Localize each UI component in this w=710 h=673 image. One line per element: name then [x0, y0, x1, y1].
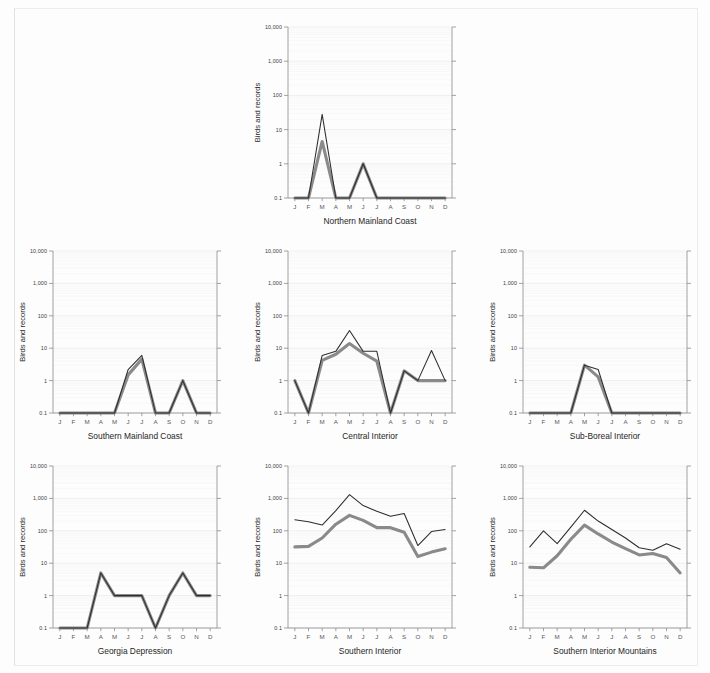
chart-svg: 10,0001,0001001010.1JFMAMJJASONDBirds an…	[251, 14, 470, 238]
series-line-birds	[295, 343, 445, 413]
y-tick-label: 10,000	[265, 248, 282, 254]
x-tick-label-J: J	[597, 633, 600, 640]
x-tick-label-J: J	[127, 633, 130, 640]
x-tick-label-S: S	[402, 203, 406, 210]
y-axis-title: Birds and records	[18, 517, 27, 577]
x-tick-label-M: M	[555, 633, 560, 640]
y-tick-label: 100	[508, 528, 517, 534]
x-tick-label-J: J	[597, 418, 600, 425]
x-tick-label-J: J	[610, 633, 613, 640]
y-tick-label: 0.1	[274, 625, 282, 631]
x-tick-label-S: S	[402, 633, 406, 640]
series-line-records	[530, 510, 680, 550]
x-tick-label-D: D	[678, 418, 683, 425]
y-tick-label: 10,000	[265, 463, 282, 469]
panel-title: Southern Interior	[339, 646, 402, 656]
y-tick-label: 1	[279, 378, 282, 384]
y-tick-label: 0.1	[509, 410, 517, 416]
x-tick-label-F: F	[72, 633, 76, 640]
x-tick-label-M: M	[347, 633, 352, 640]
panel-title: Southern Mainland Coast	[88, 431, 183, 441]
y-axis-title: Birds and records	[488, 517, 497, 577]
y-axis-title: Birds and records	[253, 302, 262, 362]
gridlines	[53, 466, 217, 628]
axes: 10,0001,0001001010.1JFMAMJJASOND	[500, 248, 691, 425]
y-tick-label: 1	[514, 593, 517, 599]
y-tick-label: 10,000	[30, 248, 47, 254]
y-tick-label: 10	[41, 560, 47, 566]
y-tick-label: 10	[276, 345, 282, 351]
x-tick-label-S: S	[637, 418, 641, 425]
x-tick-label-N: N	[429, 418, 433, 425]
x-tick-label-N: N	[664, 418, 668, 425]
x-tick-label-D: D	[443, 203, 448, 210]
x-tick-label-M: M	[85, 418, 90, 425]
panel-title: Northern Mainland Coast	[323, 216, 417, 226]
series-line-birds	[295, 141, 445, 198]
series-line-records	[295, 331, 445, 413]
x-tick-label-O: O	[415, 418, 420, 425]
x-tick-label-J: J	[375, 203, 378, 210]
y-tick-label: 0.1	[509, 625, 517, 631]
chart-panel-southern-mainland-coast: 10,0001,0001001010.1JFMAMJJASONDBirds an…	[16, 238, 235, 453]
y-tick-label: 10,000	[500, 248, 517, 254]
x-tick-label-F: F	[542, 633, 546, 640]
chart-svg: 10,0001,0001001010.1JFMAMJJASONDBirds an…	[16, 238, 235, 453]
x-tick-label-N: N	[429, 633, 433, 640]
x-tick-label-A: A	[334, 203, 339, 210]
y-tick-label: 1,000	[503, 495, 517, 501]
series-line-birds	[60, 359, 210, 413]
gridlines	[53, 251, 217, 413]
y-tick-label: 10,000	[265, 24, 282, 30]
chart-panel-southern-interior-mountains: 10,0001,0001001010.1JFMAMJJASONDBirds an…	[486, 453, 705, 668]
x-tick-label-A: A	[334, 418, 339, 425]
gridlines	[288, 251, 452, 413]
x-tick-label-N: N	[429, 203, 433, 210]
x-tick-label-J: J	[375, 633, 378, 640]
x-tick-label-D: D	[208, 633, 213, 640]
x-tick-label-J: J	[58, 633, 61, 640]
x-tick-label-D: D	[443, 633, 448, 640]
chart-svg: 10,0001,0001001010.1JFMAMJJASONDBirds an…	[486, 453, 705, 668]
x-tick-label-J: J	[375, 418, 378, 425]
x-tick-label-A: A	[623, 633, 628, 640]
y-tick-label: 10	[511, 560, 517, 566]
x-tick-label-J: J	[293, 203, 296, 210]
x-tick-label-F: F	[307, 633, 311, 640]
x-tick-label-M: M	[320, 203, 325, 210]
axes: 10,0001,0001001010.1JFMAMJJASOND	[500, 463, 691, 640]
y-tick-label: 100	[508, 313, 517, 319]
y-tick-label: 0.1	[274, 410, 282, 416]
chart-panel-northern-mainland-coast: 10,0001,0001001010.1JFMAMJJASONDBirds an…	[251, 14, 470, 238]
x-tick-label-A: A	[569, 418, 574, 425]
gridlines	[523, 251, 687, 413]
panel-title: Southern Interior Mountains	[553, 646, 656, 656]
x-tick-label-S: S	[167, 418, 171, 425]
x-tick-label-M: M	[85, 633, 90, 640]
y-tick-label: 10	[511, 345, 517, 351]
chart-svg: 10,0001,0001001010.1JFMAMJJASONDBirds an…	[486, 238, 705, 453]
y-tick-label: 1	[44, 378, 47, 384]
x-tick-label-A: A	[388, 418, 393, 425]
x-tick-label-M: M	[320, 418, 325, 425]
chart-panel-georgia-depression: 10,0001,0001001010.1JFMAMJJASONDBirds an…	[16, 453, 235, 668]
x-tick-label-S: S	[402, 418, 406, 425]
y-axis-title: Birds and records	[488, 302, 497, 362]
x-tick-label-N: N	[194, 633, 198, 640]
x-tick-label-M: M	[320, 633, 325, 640]
x-tick-label-M: M	[582, 418, 587, 425]
y-tick-label: 0.1	[39, 410, 47, 416]
x-tick-label-M: M	[347, 203, 352, 210]
x-tick-label-M: M	[112, 633, 117, 640]
axes: 10,0001,0001001010.1JFMAMJJASOND	[30, 463, 221, 640]
y-axis-title: Birds and records	[253, 83, 262, 143]
x-tick-label-D: D	[208, 418, 213, 425]
x-tick-label-J: J	[362, 633, 365, 640]
x-tick-label-A: A	[153, 418, 158, 425]
x-tick-label-J: J	[528, 633, 531, 640]
series-line-records	[60, 355, 210, 413]
x-tick-label-F: F	[542, 418, 546, 425]
y-tick-label: 10	[276, 560, 282, 566]
x-tick-label-F: F	[307, 418, 311, 425]
axes: 10,0001,0001001010.1JFMAMJJASOND	[30, 248, 221, 425]
